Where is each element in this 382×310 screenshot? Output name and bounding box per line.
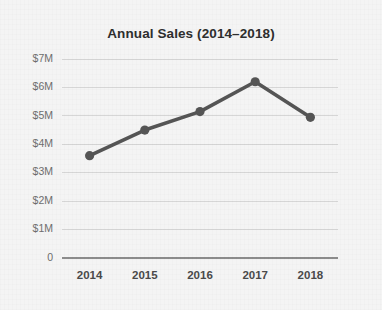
y-axis-tick-label: $2M	[33, 194, 53, 206]
x-axis-tick-label: 2017	[242, 269, 268, 281]
data-point-marker[interactable]	[306, 113, 315, 122]
chart-card: Annual Sales (2014–2018) $7M$6M$5M$4M$3M…	[0, 0, 382, 310]
y-axis-tick-label: 0	[47, 251, 53, 263]
y-axis-tick-label: $6M	[33, 80, 53, 92]
x-axis-tick-label: 2016	[187, 269, 213, 281]
data-point-marker[interactable]	[140, 125, 149, 134]
data-point-marker[interactable]	[195, 107, 204, 116]
y-axis-tick-label: $5M	[33, 109, 53, 121]
x-axis-tick-label: 2018	[298, 269, 324, 281]
x-axis-tick-label: 2014	[77, 269, 103, 281]
y-axis-tick-label: $7M	[33, 52, 53, 64]
data-point-marker[interactable]	[251, 77, 260, 86]
y-axis-tick-label: $3M	[33, 165, 53, 177]
line-chart-plot: $7M$6M$5M$4M$3M$2M$1M0 20142015201620172…	[0, 0, 382, 310]
data-point-marker[interactable]	[85, 151, 94, 160]
x-axis-tick-label: 2015	[132, 269, 158, 281]
y-axis-tick-labels: $7M$6M$5M$4M$3M$2M$1M0	[33, 52, 54, 263]
y-axis-tick-label: $4M	[33, 137, 53, 149]
sales-data-markers	[85, 77, 315, 160]
gridlines-group	[62, 59, 338, 230]
x-axis-tick-labels: 20142015201620172018	[77, 269, 324, 281]
y-axis-tick-label: $1M	[33, 222, 53, 234]
